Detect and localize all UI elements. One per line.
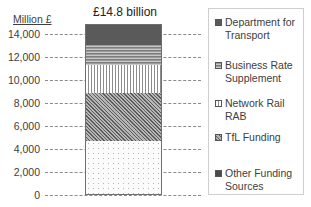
y-tick-8000: 8,000 <box>0 97 40 109</box>
baseline <box>45 195 201 196</box>
y-tick-14000: 14,000 <box>0 28 40 40</box>
legend-marker-icon <box>215 100 222 107</box>
segment-business-rate-supplement <box>86 45 161 65</box>
chart-title: £14.8 billion <box>85 5 165 19</box>
legend-marker-icon <box>215 134 222 141</box>
legend: Department for Transport Business Rate S… <box>208 8 304 195</box>
legend-marker-icon <box>215 62 222 69</box>
y-tick-10000: 10,000 <box>0 74 40 86</box>
legend-label: Other Funding Sources <box>225 167 305 193</box>
y-tick-0: 0 <box>0 189 40 201</box>
legend-marker-icon <box>215 19 222 26</box>
stacked-bar <box>85 24 162 195</box>
y-tick-2000: 2,000 <box>0 166 40 178</box>
y-tick-4000: 4,000 <box>0 143 40 155</box>
legend-label: TfL Funding <box>225 131 305 144</box>
legend-label: Business Rate Supplement <box>225 59 305 85</box>
legend-label: Network Rail RAB <box>225 97 305 123</box>
segment-other-funding-sources <box>86 141 161 194</box>
segment-network-rail-rab <box>86 65 161 93</box>
y-axis-unit-label: Million £ <box>13 13 52 25</box>
y-tick-12000: 12,000 <box>0 51 40 63</box>
y-tick-6000: 6,000 <box>0 120 40 132</box>
segment-tfl-funding <box>86 93 161 141</box>
legend-label: Department for Transport <box>225 16 305 42</box>
legend-marker-icon <box>215 170 222 177</box>
segment-department-for-transport <box>86 25 161 45</box>
